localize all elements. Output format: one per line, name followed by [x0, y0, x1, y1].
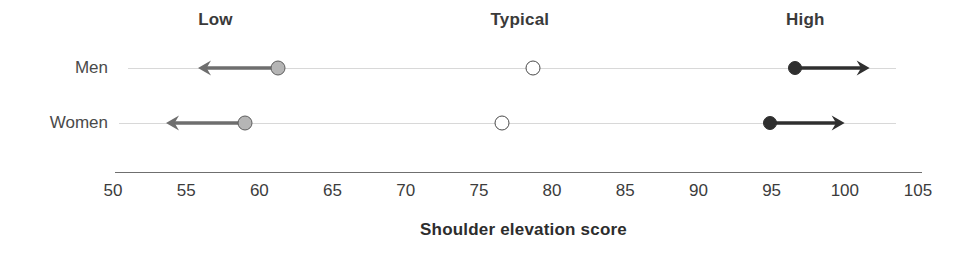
x-tick-label: 50 [104, 181, 123, 201]
x-tick-label: 95 [762, 181, 781, 201]
band-label-typical: Typical [491, 10, 550, 30]
marker-high-men [788, 61, 802, 75]
band-label-high: High [786, 10, 825, 30]
x-tick-label: 80 [543, 181, 562, 201]
marker-low-men [271, 61, 286, 76]
x-tick-label: 55 [177, 181, 196, 201]
x-tick-label: 85 [616, 181, 635, 201]
marker-low-women [237, 116, 252, 131]
band-label-low: Low [198, 10, 233, 30]
x-tick-label: 65 [323, 181, 342, 201]
x-tick-label: 70 [396, 181, 415, 201]
marker-typical-men [526, 61, 541, 76]
marker-typical-women [495, 116, 510, 131]
x-axis-title: Shoulder elevation score [420, 220, 627, 240]
category-label-men: Men [75, 58, 108, 78]
chart-container: Low Typical High Men Women 5055606570758… [0, 0, 976, 259]
x-tick-label: 75 [469, 181, 488, 201]
x-tick-label: 100 [831, 181, 859, 201]
category-label-women: Women [50, 113, 108, 133]
marker-high-women [763, 116, 777, 130]
x-tick-label: 105 [904, 181, 932, 201]
x-tick-label: 90 [689, 181, 708, 201]
x-axis-line [115, 172, 922, 173]
x-tick-label: 60 [250, 181, 269, 201]
